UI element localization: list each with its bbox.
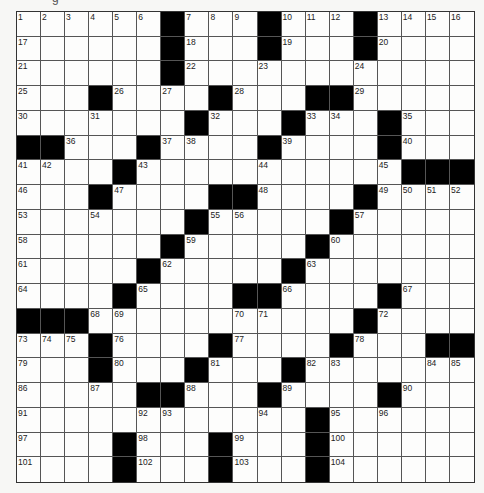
grid-cell[interactable] <box>306 309 330 334</box>
grid-cell[interactable] <box>402 309 426 334</box>
grid-cell[interactable]: 4 <box>89 12 113 37</box>
grid-cell[interactable] <box>233 37 257 62</box>
grid-cell[interactable]: 6 <box>137 12 161 37</box>
grid-cell[interactable]: 61 <box>17 259 41 284</box>
grid-cell[interactable]: 29 <box>354 86 378 111</box>
grid-cell[interactable]: 82 <box>306 358 330 383</box>
grid-cell[interactable] <box>89 235 113 260</box>
grid-cell[interactable]: 51 <box>426 185 450 210</box>
grid-cell[interactable]: 90 <box>402 383 426 408</box>
grid-cell[interactable] <box>233 235 257 260</box>
grid-cell[interactable] <box>65 358 89 383</box>
grid-cell[interactable]: 96 <box>378 408 402 433</box>
grid-cell[interactable]: 19 <box>282 37 306 62</box>
grid-cell[interactable] <box>89 259 113 284</box>
grid-cell[interactable] <box>209 259 233 284</box>
grid-cell[interactable]: 5 <box>113 12 137 37</box>
grid-cell[interactable] <box>426 136 450 161</box>
grid-cell[interactable] <box>233 160 257 185</box>
grid-cell[interactable] <box>113 383 137 408</box>
grid-cell[interactable]: 65 <box>137 284 161 309</box>
grid-cell[interactable] <box>354 284 378 309</box>
grid-cell[interactable] <box>450 259 474 284</box>
grid-cell[interactable] <box>233 111 257 136</box>
grid-cell[interactable] <box>137 185 161 210</box>
grid-cell[interactable]: 64 <box>17 284 41 309</box>
grid-cell[interactable] <box>65 210 89 235</box>
grid-cell[interactable] <box>113 111 137 136</box>
grid-cell[interactable] <box>89 136 113 161</box>
grid-cell[interactable]: 46 <box>17 185 41 210</box>
grid-cell[interactable] <box>113 61 137 86</box>
grid-cell[interactable]: 101 <box>17 457 41 482</box>
grid-cell[interactable] <box>426 457 450 482</box>
grid-cell[interactable]: 30 <box>17 111 41 136</box>
grid-cell[interactable] <box>378 457 402 482</box>
grid-cell[interactable] <box>65 457 89 482</box>
grid-cell[interactable] <box>113 408 137 433</box>
grid-cell[interactable]: 17 <box>17 37 41 62</box>
grid-cell[interactable]: 21 <box>17 61 41 86</box>
grid-cell[interactable] <box>258 111 282 136</box>
grid-cell[interactable]: 92 <box>137 408 161 433</box>
grid-cell[interactable] <box>330 383 354 408</box>
grid-cell[interactable]: 26 <box>113 86 137 111</box>
grid-cell[interactable] <box>65 185 89 210</box>
grid-cell[interactable] <box>450 284 474 309</box>
grid-cell[interactable]: 103 <box>233 457 257 482</box>
grid-cell[interactable] <box>65 37 89 62</box>
grid-cell[interactable] <box>450 235 474 260</box>
grid-cell[interactable]: 33 <box>306 111 330 136</box>
grid-cell[interactable] <box>41 408 65 433</box>
grid-cell[interactable] <box>161 457 185 482</box>
grid-cell[interactable]: 49 <box>378 185 402 210</box>
grid-cell[interactable]: 86 <box>17 383 41 408</box>
grid-cell[interactable]: 45 <box>378 160 402 185</box>
grid-cell[interactable] <box>426 433 450 458</box>
grid-cell[interactable] <box>282 86 306 111</box>
grid-cell[interactable] <box>354 408 378 433</box>
grid-cell[interactable] <box>89 61 113 86</box>
grid-cell[interactable] <box>258 259 282 284</box>
grid-cell[interactable] <box>113 235 137 260</box>
grid-cell[interactable] <box>258 433 282 458</box>
grid-cell[interactable]: 12 <box>330 12 354 37</box>
grid-cell[interactable] <box>137 334 161 359</box>
grid-cell[interactable]: 44 <box>258 160 282 185</box>
grid-cell[interactable]: 11 <box>306 12 330 37</box>
grid-cell[interactable] <box>354 160 378 185</box>
grid-cell[interactable] <box>402 61 426 86</box>
grid-cell[interactable] <box>426 210 450 235</box>
grid-cell[interactable] <box>354 383 378 408</box>
grid-cell[interactable] <box>330 284 354 309</box>
grid-cell[interactable] <box>41 383 65 408</box>
grid-cell[interactable] <box>209 383 233 408</box>
grid-cell[interactable] <box>426 383 450 408</box>
grid-cell[interactable] <box>41 259 65 284</box>
grid-cell[interactable]: 57 <box>354 210 378 235</box>
grid-cell[interactable]: 42 <box>41 160 65 185</box>
grid-cell[interactable]: 22 <box>185 61 209 86</box>
grid-cell[interactable]: 78 <box>354 334 378 359</box>
grid-cell[interactable] <box>306 334 330 359</box>
grid-cell[interactable]: 80 <box>113 358 137 383</box>
grid-cell[interactable]: 38 <box>185 136 209 161</box>
grid-cell[interactable] <box>185 334 209 359</box>
grid-cell[interactable] <box>426 408 450 433</box>
grid-cell[interactable] <box>185 185 209 210</box>
grid-cell[interactable] <box>282 309 306 334</box>
grid-cell[interactable]: 15 <box>426 12 450 37</box>
grid-cell[interactable]: 94 <box>258 408 282 433</box>
grid-cell[interactable] <box>161 309 185 334</box>
grid-cell[interactable] <box>282 433 306 458</box>
grid-cell[interactable]: 41 <box>17 160 41 185</box>
grid-cell[interactable]: 32 <box>209 111 233 136</box>
grid-cell[interactable]: 39 <box>282 136 306 161</box>
grid-cell[interactable] <box>330 160 354 185</box>
grid-cell[interactable]: 47 <box>113 185 137 210</box>
grid-cell[interactable] <box>41 358 65 383</box>
grid-cell[interactable] <box>450 309 474 334</box>
grid-cell[interactable] <box>41 457 65 482</box>
grid-cell[interactable] <box>450 111 474 136</box>
grid-cell[interactable]: 68 <box>89 309 113 334</box>
